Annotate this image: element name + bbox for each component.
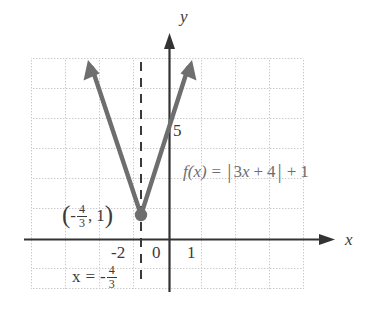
x-tick-label-0: 0 — [152, 244, 161, 261]
x-tick-label-minus2: -2 — [111, 244, 125, 261]
formula-equals: = — [212, 162, 222, 181]
asymptote-minus-sign: - — [100, 267, 106, 286]
vertex-fraction-denominator: 3 — [77, 216, 87, 230]
vertex-comma: , — [88, 206, 92, 225]
asymptote-variable: x — [72, 267, 81, 286]
asymptote-fraction: 4 3 — [107, 264, 117, 290]
vertex-minus-sign: - — [70, 206, 76, 225]
function-formula-label: f(x)=|3x+4|+1 — [183, 163, 309, 180]
vertex-point-marker — [135, 209, 147, 221]
x-axis-label: x — [345, 231, 353, 248]
asymptote-fraction-denominator: 3 — [107, 277, 117, 291]
vertex-fraction: 4 3 — [77, 203, 87, 229]
vertex-fraction-numerator: 4 — [77, 203, 87, 216]
x-axis — [24, 234, 335, 245]
x-tick-label-1: 1 — [187, 244, 196, 261]
graph-canvas — [0, 0, 368, 312]
vertex-close-paren: ) — [105, 201, 113, 228]
graph-figure: y x 5 -2 0 1 f(x)=|3x+4|+1 (- 4 3 ,1) x=… — [0, 0, 368, 312]
asymptote-fraction-numerator: 4 — [107, 264, 117, 277]
formula-plus-outer: + — [287, 162, 297, 181]
formula-const-outer: 1 — [300, 162, 309, 181]
vertex-coordinate-label: (- 4 3 ,1) — [62, 204, 113, 230]
formula-variable: x — [242, 162, 250, 181]
asymptote-equals: = — [86, 267, 96, 286]
vertex-y-value: 1 — [96, 206, 105, 225]
formula-plus-inner: + — [253, 162, 263, 181]
y-tick-label-5: 5 — [173, 122, 182, 139]
formula-fn: f(x) — [183, 162, 207, 181]
formula-const-inner: 4 — [267, 162, 276, 181]
formula-coefficient: 3 — [233, 162, 242, 181]
y-axis — [164, 33, 175, 292]
y-axis-label: y — [180, 8, 188, 25]
vertex-open-paren: ( — [62, 201, 70, 228]
axis-of-symmetry-label: x=- 4 3 — [72, 265, 118, 291]
